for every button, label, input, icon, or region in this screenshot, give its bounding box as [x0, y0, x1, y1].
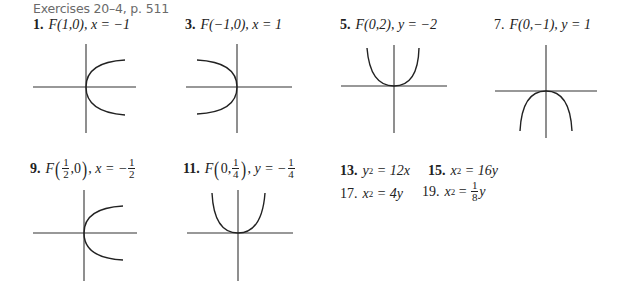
graph-7-opens-down — [495, 45, 597, 138]
graph-11-opens-up — [187, 190, 293, 281]
parabola-curve — [367, 48, 419, 86]
graph-9-opens-right — [33, 190, 137, 281]
parabola-graphs — [0, 0, 625, 296]
graph-1-opens-right — [33, 44, 136, 133]
graph-3-opens-left — [186, 44, 292, 133]
graph-5-opens-up — [341, 45, 447, 133]
